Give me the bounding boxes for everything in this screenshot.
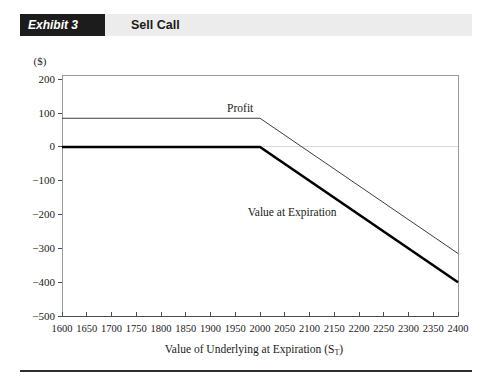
- x-tick-label: 2100: [299, 323, 320, 334]
- y-tick-label: 0: [50, 140, 56, 152]
- x-tick-label: 2250: [373, 323, 394, 334]
- x-tick-label: 1850: [175, 323, 196, 334]
- x-tick-label: 1950: [225, 323, 246, 334]
- y-tick-label: −300: [32, 242, 55, 254]
- x-tick-label: 2050: [274, 323, 295, 334]
- y-tick-label: 100: [39, 107, 56, 119]
- x-tick-label: 2400: [448, 323, 469, 334]
- x-tick-label: 2200: [349, 323, 370, 334]
- x-tick-label: 1750: [126, 323, 147, 334]
- x-tick-label: 1800: [151, 323, 172, 334]
- bottom-rule: [20, 370, 472, 372]
- profit-line: [62, 118, 458, 253]
- x-tick-label: 1600: [52, 323, 73, 334]
- annotation-value-at-expiration: Value at Expiration: [248, 206, 337, 219]
- x-tick-label: 2350: [423, 323, 444, 334]
- y-tick-label: 200: [39, 73, 56, 85]
- y-tick-label: −400: [32, 276, 55, 288]
- annotation-profit: Profit: [227, 102, 254, 114]
- x-tick-label: 2300: [398, 323, 419, 334]
- x-tick-label: 1700: [101, 323, 122, 334]
- y-tick-label: −500: [32, 310, 55, 322]
- x-axis-title: Value of Underlying at Expiration (ST): [165, 343, 343, 357]
- x-tick-label: 1900: [200, 323, 221, 334]
- sell-call-chart: 2001000−100−200−300−400−5001600165017001…: [0, 0, 492, 378]
- y-tick-label: −200: [32, 208, 55, 220]
- x-tick-label: 1650: [76, 323, 97, 334]
- exhibit-page: Exhibit 3 Sell Call 2001000−100−200−300−…: [0, 0, 492, 378]
- y-tick-label: −100: [32, 174, 55, 186]
- y-axis-unit-label: ($): [34, 55, 47, 68]
- plot-frame: [63, 76, 459, 317]
- x-tick-label: 2000: [250, 323, 271, 334]
- x-tick-label: 2150: [324, 323, 345, 334]
